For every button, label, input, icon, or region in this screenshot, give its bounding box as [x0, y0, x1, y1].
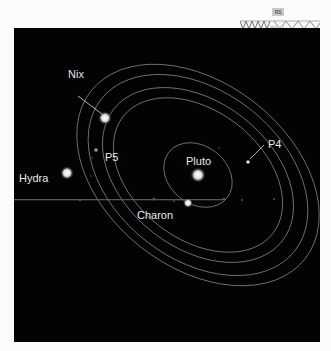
nix-orbit — [49, 33, 320, 317]
overlay-tag: ЯS — [272, 8, 284, 16]
hydra-label: Hydra — [19, 173, 48, 184]
decorative-zigzag-strip — [240, 16, 320, 26]
hydra-body — [60, 166, 74, 180]
p4-label: P4 — [268, 139, 281, 150]
nix-body — [98, 111, 112, 125]
pluto-system-image: Nix P5 Pluto P4 Hydra Charon — [14, 28, 320, 342]
charon-body — [183, 198, 193, 208]
pluto-label: Pluto — [186, 156, 211, 167]
p5-body — [94, 148, 98, 152]
p5-label: P5 — [105, 152, 118, 163]
nix-label: Nix — [68, 69, 84, 80]
charon-label: Charon — [137, 210, 173, 221]
pluto-body — [190, 167, 206, 183]
p4-body — [246, 160, 251, 165]
